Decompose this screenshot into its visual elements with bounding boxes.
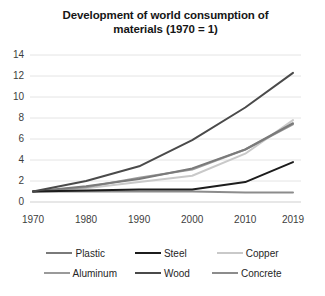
legend-swatch-steel bbox=[135, 252, 161, 254]
legend-label: Concrete bbox=[241, 268, 282, 279]
series-lines bbox=[33, 73, 293, 193]
gridlines bbox=[30, 55, 301, 202]
legend-item-concrete[interactable]: Concrete bbox=[212, 268, 282, 279]
y-axis-tick-label: 8 bbox=[2, 113, 24, 123]
x-axis-tick-label: 2010 bbox=[225, 215, 265, 225]
legend-label: Plastic bbox=[75, 248, 104, 259]
legend-item-copper[interactable]: Copper bbox=[217, 248, 279, 259]
legend-swatch-aluminum bbox=[44, 272, 70, 274]
legend-label: Steel bbox=[164, 248, 187, 259]
x-axis-tick-label: 2019 bbox=[273, 215, 313, 225]
plot-area: 02468101214 197019801990200020102019 bbox=[0, 0, 325, 232]
y-axis-tick-label: 14 bbox=[2, 50, 24, 60]
legend-item-wood[interactable]: Wood bbox=[135, 268, 190, 279]
legend-item-aluminum[interactable]: Aluminum bbox=[44, 268, 117, 279]
legend-swatch-copper bbox=[217, 252, 243, 254]
legend-label: Wood bbox=[164, 268, 190, 279]
legend-row-2: AluminumWoodConcrete bbox=[0, 263, 325, 283]
chart-container: Development of world consumption of mate… bbox=[0, 0, 325, 296]
legend-label: Copper bbox=[246, 248, 279, 259]
y-axis-tick-label: 6 bbox=[2, 134, 24, 144]
y-axis-tick-label: 4 bbox=[2, 155, 24, 165]
y-axis-tick-label: 0 bbox=[2, 197, 24, 207]
x-axis-tick-label: 2000 bbox=[172, 215, 212, 225]
chart-plot-svg bbox=[0, 0, 325, 232]
legend-row-1: PlasticSteelCopper bbox=[0, 243, 325, 263]
x-axis-tick-label: 1970 bbox=[13, 215, 53, 225]
y-axis-tick-label: 10 bbox=[2, 92, 24, 102]
legend-item-steel[interactable]: Steel bbox=[135, 248, 187, 259]
y-axis-tick-label: 2 bbox=[2, 176, 24, 186]
legend-swatch-plastic bbox=[46, 252, 72, 254]
y-axis-tick-label: 12 bbox=[2, 71, 24, 81]
legend-swatch-wood bbox=[135, 272, 161, 274]
x-axis-tick-label: 1980 bbox=[66, 215, 106, 225]
chart-legend: PlasticSteelCopper AluminumWoodConcrete bbox=[0, 243, 325, 283]
legend-item-plastic[interactable]: Plastic bbox=[46, 248, 104, 259]
legend-swatch-concrete bbox=[212, 272, 238, 274]
legend-label: Aluminum bbox=[73, 268, 117, 279]
x-axis-tick-label: 1990 bbox=[119, 215, 159, 225]
